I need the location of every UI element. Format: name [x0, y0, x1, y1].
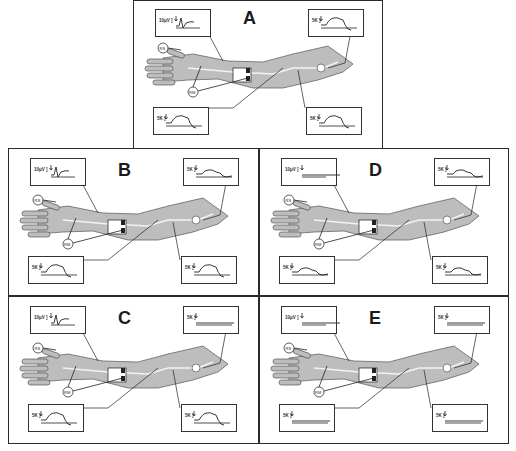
svg-text:RM: RM — [315, 242, 321, 247]
svg-text:RM: RM — [315, 390, 321, 395]
waveform-trace — [182, 257, 238, 285]
svg-text:RM: RM — [189, 90, 195, 95]
forearm-trace-box: 5K ] — [153, 107, 209, 135]
waveform-trace — [282, 159, 338, 187]
waveform-trace — [433, 257, 489, 285]
upper-arm-trace-box: 5K ] — [181, 404, 237, 432]
waveform-trace — [29, 405, 85, 433]
svg-text:RS: RS — [286, 198, 292, 203]
proximal-trace-box: 5K ] — [183, 306, 239, 334]
svg-text:RS: RS — [35, 198, 41, 203]
waveform-trace — [184, 307, 240, 335]
panel-b: B RS RM 10μV ] 5K ] — [8, 148, 258, 296]
upper-arm-trace-box: 5K ] — [432, 404, 488, 432]
forearm-trace-box: 5K ] — [28, 404, 84, 432]
waveform-trace — [280, 405, 336, 433]
waveform-trace — [156, 10, 212, 38]
svg-text:RM: RM — [64, 242, 70, 247]
waveform-trace — [154, 108, 210, 136]
waveform-trace — [31, 307, 87, 335]
waveform-trace — [182, 405, 238, 433]
upper-arm-trace-box: 5K ] — [181, 256, 237, 284]
sensory-trace-box: 10μV ] — [281, 158, 337, 186]
waveform-trace — [282, 307, 338, 335]
waveform-trace — [433, 405, 489, 433]
sensory-trace-box: 10μV ] — [30, 158, 86, 186]
sensory-trace-box: 10μV ] — [281, 306, 337, 334]
proximal-trace-box: 5K ] — [183, 158, 239, 186]
waveform-trace — [309, 10, 365, 38]
proximal-trace-box: 5K ] — [434, 158, 490, 186]
svg-text:RM: RM — [64, 390, 70, 395]
upper-arm-trace-box: 5K ] — [432, 256, 488, 284]
waveform-trace — [280, 257, 336, 285]
panel-d: D RS RM 10μV ] 5K ] — [259, 148, 509, 296]
waveform-trace — [307, 108, 363, 136]
waveform-trace — [435, 159, 491, 187]
proximal-trace-box: 5K ] — [434, 306, 490, 334]
sensory-trace-box: 10μV ] — [155, 9, 211, 37]
waveform-trace — [184, 159, 240, 187]
svg-text:RS: RS — [286, 346, 292, 351]
forearm-trace-box: 5K ] — [279, 404, 335, 432]
upper-arm-trace-box: 5K ] — [306, 107, 362, 135]
svg-text:RS: RS — [160, 46, 166, 51]
panel-e: E RS RM 10μV ] 5K ] — [259, 296, 509, 444]
waveform-trace — [29, 257, 85, 285]
panel-a: A RS RM 10μV ] 5K ] — [133, 0, 383, 149]
waveform-trace — [31, 159, 87, 187]
svg-text:RS: RS — [35, 346, 41, 351]
proximal-trace-box: 5K ] — [308, 9, 364, 37]
forearm-trace-box: 5K ] — [28, 256, 84, 284]
panel-c: C RS RM 10μV ] 5K ] — [8, 296, 258, 444]
sensory-trace-box: 10μV ] — [30, 306, 86, 334]
waveform-trace — [435, 307, 491, 335]
forearm-trace-box: 5K ] — [279, 256, 335, 284]
